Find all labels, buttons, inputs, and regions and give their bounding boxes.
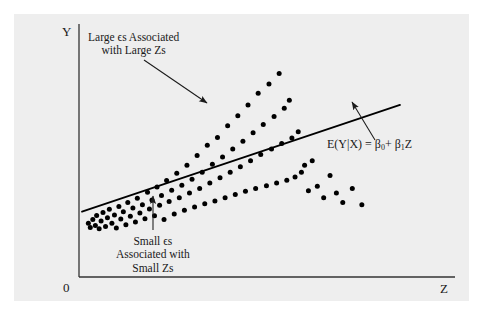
scatter-point [167,199,172,204]
scatter-point [230,147,235,152]
scatter-point [282,106,287,111]
scatter-point [109,221,114,226]
scatter-point [140,202,145,207]
scatter-point [251,130,256,135]
scatter-point [147,206,152,211]
scatter-point [118,217,123,222]
scatter-point [135,196,140,201]
scatter-point [195,153,200,158]
scatter-point [128,214,133,219]
scatter-point [220,154,225,159]
scatter-point [287,98,292,103]
y-axis-label: Y [62,24,71,39]
scatter-point [284,178,289,183]
scatter-point [328,173,333,178]
equation-plus: + [385,137,395,151]
scatter-point [112,212,117,217]
scatter-point [289,135,294,140]
scatter-point [142,216,147,221]
scatter-point [105,215,110,220]
scatter-point [116,204,121,209]
scatter-point [202,201,207,206]
large-errors-arrow [144,60,207,103]
scatter-point [310,158,315,163]
figure-root: Y Z 0 Large ϵs Associated with Large Zs … [0,0,485,315]
scatter-point [272,114,277,119]
large-errors-caption-line1: Large ϵs Associated [88,31,179,44]
scatter-point [94,213,99,218]
scatter-point [228,170,233,175]
scatter-point [107,207,112,212]
scatter-point [266,82,271,87]
scatter-point [315,184,320,189]
scatter-point [302,163,307,168]
scatter-point [123,222,128,227]
scatter-point [157,203,162,208]
scatter-point [340,200,345,205]
scatter-point [169,188,174,193]
large-errors-caption-line2: with Large Zs [88,44,179,57]
scatter-point [207,180,212,185]
equation-beta0-subscript: 0 [381,143,385,152]
equation-lhs: E(Y|X) = [327,137,375,151]
equation-variable: Z [405,137,412,151]
scatter-point [256,91,261,96]
scatter-point [90,217,95,222]
scatter-point [218,175,223,180]
scatter-point [192,205,197,210]
scatter-point [99,218,104,223]
scatter-point [182,208,187,213]
x-axis-label: Z [440,281,448,296]
scatter-point [130,205,135,210]
scatter-point [121,209,126,214]
scatter-point [233,192,238,197]
scatter-point [97,226,102,231]
small-errors-caption-line2: Associated with [116,248,190,261]
scatter-point [177,195,182,200]
scatter-point [238,164,243,169]
scatter-point [133,219,138,224]
scatter-point [334,191,339,196]
small-errors-caption-line1: Small ϵs [116,235,190,248]
scatter-point [159,193,164,198]
scatter-point [277,71,282,76]
scatter-point [114,225,119,230]
scatter-point [205,143,210,148]
scatter-point [299,170,304,175]
scatter-point [197,186,202,191]
scatter-point [235,113,240,118]
scatter-point [93,223,98,228]
scatter-point [100,210,105,215]
scatter-point [306,188,311,193]
scatter-point [212,199,217,204]
scatter-point [296,129,301,134]
scatter-point [253,186,258,191]
equation-beta1-subscript: 1 [401,143,405,152]
scatter-point [264,183,269,188]
scatter-point [359,202,364,207]
scatter-point [187,191,192,196]
scatter-point [172,212,177,217]
scatter-point [246,102,251,107]
equation-beta1: β [395,137,401,151]
small-errors-caption-line3: Small Zs [116,262,190,275]
origin-label: 0 [63,280,70,295]
scatter-point [210,162,215,167]
scatter-point [293,174,298,179]
scatter-point [174,171,179,176]
scatter-point [190,177,195,182]
scatter-point [225,123,230,128]
large-errors-caption: Large ϵs Associated with Large Zs [88,31,179,58]
scatter-point [240,139,245,144]
scatter-point [162,217,167,222]
scatter-point [179,183,184,188]
small-errors-caption: Small ϵs Associated with Small Zs [116,235,190,275]
scatter-point [261,122,266,127]
scatter-point [321,195,326,200]
scatter-point [88,225,93,230]
regression-line [82,105,400,212]
scatter-point-group [86,71,364,231]
scatter-point [274,180,279,185]
scatter-point [184,163,189,168]
regression-equation-label: E(Y|X) = β0+ β1Z [327,138,412,152]
